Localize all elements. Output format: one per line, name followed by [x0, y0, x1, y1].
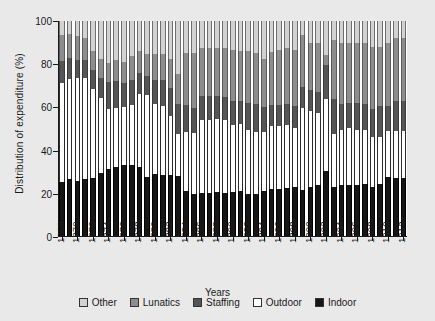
segment-staffing [276, 105, 282, 127]
segment-other [75, 21, 81, 36]
segment-outdoor [253, 132, 259, 194]
segment-lunatics [75, 36, 81, 60]
bar-1868 [59, 21, 65, 236]
x-tick-label-1900: 1900 [303, 221, 314, 243]
x-tick-label-1874: 1874 [101, 221, 112, 243]
x-tick-label-1876: 1876 [117, 221, 128, 243]
segment-lunatics [354, 43, 360, 103]
segment-lunatics [222, 48, 228, 97]
segment-other [98, 21, 104, 59]
segment-outdoor [98, 98, 104, 172]
x-tick-label-1894: 1894 [256, 221, 267, 243]
segment-other [168, 21, 174, 59]
bar-1904 [339, 21, 345, 236]
segment-lunatics [377, 47, 383, 106]
segment-lunatics [90, 51, 96, 70]
segment-staffing [152, 80, 158, 104]
legend-item-outdoor: Outdoor [253, 297, 302, 308]
segment-other [191, 21, 197, 53]
segment-staffing [67, 58, 73, 80]
segment-other [175, 21, 181, 74]
segment-staffing [214, 96, 220, 119]
segment-outdoor [331, 134, 337, 187]
bar-1887 [207, 21, 213, 236]
segment-lunatics [393, 38, 399, 100]
segment-other [199, 21, 205, 48]
segment-outdoor [199, 120, 205, 193]
segment-other [144, 21, 150, 54]
x-tick-label-1872: 1872 [86, 221, 97, 243]
bar-1874 [106, 21, 112, 236]
segment-outdoor [261, 132, 267, 191]
bar-1870 [75, 21, 81, 236]
segment-staffing [144, 76, 150, 95]
segment-outdoor [370, 137, 376, 186]
segment-staffing [269, 105, 275, 127]
x-tick-label-1878: 1878 [132, 221, 143, 243]
bar-1872 [90, 21, 96, 236]
segment-other [59, 21, 65, 35]
segment-staffing [137, 73, 143, 95]
segment-staffing [175, 104, 181, 134]
segment-outdoor [191, 133, 197, 194]
segment-other [106, 21, 112, 63]
segment-lunatics [385, 43, 391, 106]
segment-staffing [300, 87, 306, 109]
segment-outdoor [67, 79, 73, 179]
segment-staffing [191, 108, 197, 133]
segment-lunatics [370, 47, 376, 109]
segment-outdoor [315, 113, 321, 185]
y-tick-mark-20 [53, 194, 58, 195]
segment-outdoor [90, 89, 96, 178]
segment-outdoor [183, 132, 189, 191]
segment-staffing [346, 103, 352, 129]
segment-lunatics [253, 53, 259, 104]
x-tick-label-1902: 1902 [318, 221, 329, 243]
legend-item-other: Other [79, 297, 117, 308]
segment-outdoor [362, 130, 368, 185]
segment-staffing [253, 104, 259, 132]
segment-other [230, 21, 236, 50]
segment-lunatics [362, 43, 368, 104]
segment-lunatics [137, 51, 143, 73]
bar-1888 [214, 21, 220, 236]
segment-lunatics [144, 54, 150, 76]
segment-lunatics [269, 52, 275, 105]
y-tick-label-0: 0 [24, 232, 52, 243]
bar-1911 [393, 21, 399, 236]
segment-lunatics [67, 34, 73, 58]
segment-outdoor [152, 104, 158, 174]
segment-staffing [230, 101, 236, 126]
segment-staffing [75, 60, 81, 78]
bar-1873 [98, 21, 104, 236]
x-tick-label-1904: 1904 [334, 221, 345, 243]
segment-other [113, 21, 119, 60]
segment-outdoor [106, 109, 112, 169]
segment-lunatics [284, 48, 290, 104]
bar-1869 [67, 21, 73, 236]
legend-label-lunatics: Lunatics [143, 297, 180, 308]
legend-label-indoor: Indoor [328, 297, 356, 308]
y-tick-label-20: 20 [24, 188, 52, 199]
segment-outdoor [214, 119, 220, 192]
x-tick-label-1870: 1870 [70, 221, 81, 243]
segment-staffing [393, 101, 399, 131]
segment-outdoor [207, 120, 213, 193]
legend-swatch-lunatics [130, 298, 139, 307]
x-tick-label-1912: 1912 [396, 221, 407, 243]
bar-1884 [183, 21, 189, 236]
bar-1906 [354, 21, 360, 236]
segment-staffing [98, 78, 104, 98]
segment-other [284, 21, 290, 48]
bar-1902 [323, 21, 329, 236]
segment-staffing [385, 106, 391, 131]
segment-lunatics [245, 51, 251, 103]
segment-staffing [377, 106, 383, 137]
segment-other [214, 21, 220, 48]
segment-lunatics [175, 74, 181, 104]
segment-lunatics [346, 43, 352, 103]
segment-outdoor [238, 124, 244, 191]
bar-1901 [315, 21, 321, 236]
segment-lunatics [230, 50, 236, 101]
legend-swatch-outdoor [253, 298, 262, 307]
